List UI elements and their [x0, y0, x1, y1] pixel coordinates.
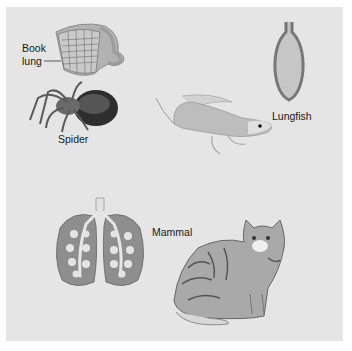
label-lung: lung [22, 55, 42, 67]
leader-line [44, 60, 62, 62]
lungfish-icon [152, 92, 288, 172]
label-spider: Spider [58, 133, 88, 145]
book-lung-icon [50, 22, 130, 82]
lungfish-lung-icon [272, 22, 306, 102]
spider-icon [26, 80, 121, 135]
cat-icon [168, 208, 292, 328]
label-book: Book [22, 42, 46, 54]
mammal-lungs-icon [52, 198, 148, 294]
